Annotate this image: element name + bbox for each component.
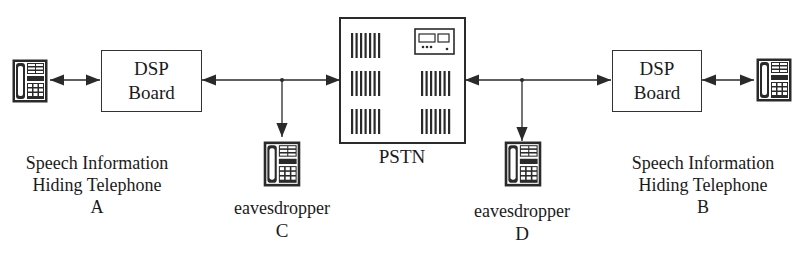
caption-a: Speech Information Hiding Telephone A (6, 152, 188, 218)
caption-b-line3: B (612, 196, 794, 218)
dsp-board-b: DSP Board (612, 50, 702, 112)
telephone-icon (12, 59, 48, 103)
telephone-icon (263, 141, 301, 187)
eavesdropper-c-label: eavesdropper (212, 197, 352, 219)
eavesdropper-d-label: eavesdropper (452, 200, 592, 222)
pstn-label: PSTN (352, 146, 452, 168)
dsp-board-b-line2: Board (634, 81, 680, 105)
eavesdropper-d-id: D (452, 223, 592, 245)
caption-a-line3: A (6, 196, 188, 218)
caption-a-line2: Hiding Telephone (6, 174, 188, 196)
dsp-board-a: DSP Board (101, 50, 202, 112)
eavesdropper-c-id: C (212, 220, 352, 242)
dsp-board-b-line1: DSP (640, 57, 675, 81)
caption-b-line2: Hiding Telephone (612, 174, 794, 196)
telephone-icon (756, 58, 792, 102)
caption-b-line1: Speech Information (612, 152, 794, 174)
telephone-icon (504, 141, 542, 187)
dsp-board-a-line1: DSP (134, 57, 169, 81)
caption-b: Speech Information Hiding Telephone B (612, 152, 794, 218)
caption-a-line1: Speech Information (6, 152, 188, 174)
pstn-switch-icon (339, 17, 466, 144)
dsp-board-a-line2: Board (128, 81, 174, 105)
